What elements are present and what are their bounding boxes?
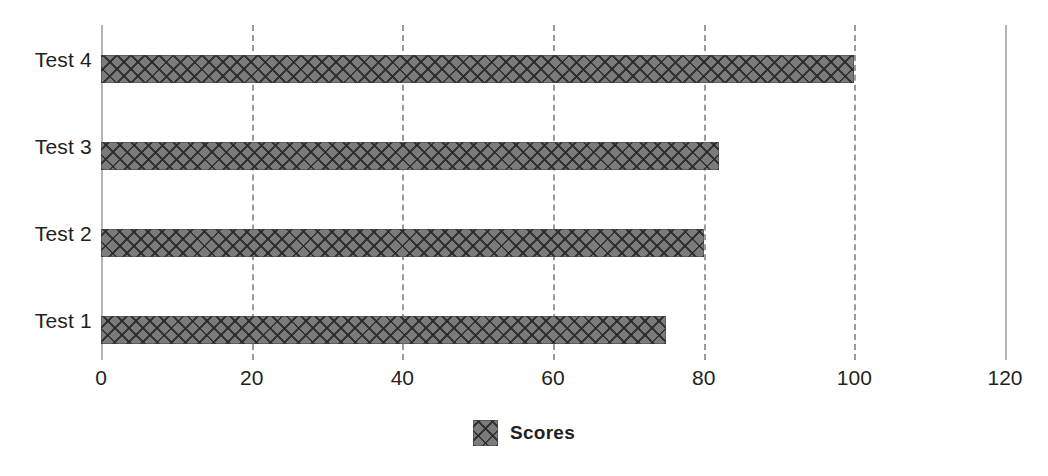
bar-chart: Test 1 Test 2 Test 3 Test 4 0 20 40 60 8… [0,0,1048,476]
x-tick-80: 80 [692,364,715,392]
bar-test-2[interactable] [101,229,704,257]
x-tick-100: 100 [837,364,872,392]
legend: Scores [0,410,1048,456]
bar-test-3[interactable] [101,142,719,170]
x-tick-20: 20 [240,364,263,392]
legend-label-scores: Scores [510,422,575,444]
y-axis-category-labels: Test 1 Test 2 Test 3 Test 4 [0,25,92,360]
x-tick-0: 0 [95,364,107,392]
category-label-test-1: Test 1 [0,307,92,335]
x-tick-40: 40 [391,364,414,392]
gridline-100 [854,25,856,360]
legend-swatch-scores [473,420,498,446]
bar-test-4[interactable] [101,55,854,83]
x-axis-tick-labels: 0 20 40 60 80 100 120 [101,364,1005,396]
bar-test-1[interactable] [101,316,666,344]
x-tick-60: 60 [541,364,564,392]
category-label-test-3: Test 3 [0,133,92,161]
plot-area [101,25,1005,360]
x-tick-120: 120 [987,364,1022,392]
gridline-120 [1005,25,1007,360]
category-label-test-2: Test 2 [0,220,92,248]
category-label-test-4: Test 4 [0,46,92,74]
